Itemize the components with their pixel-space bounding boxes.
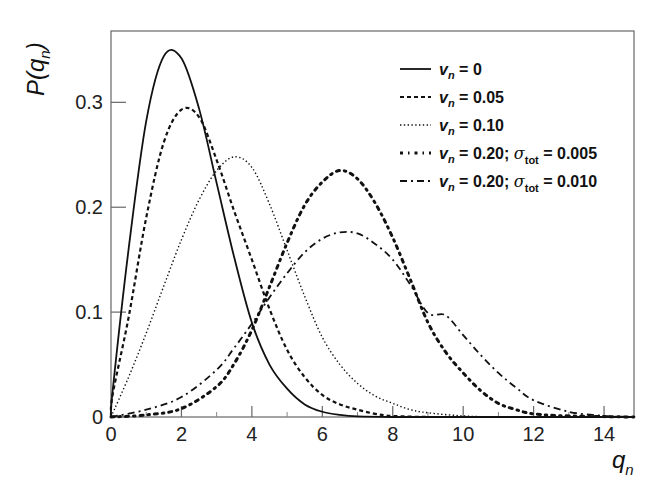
axis-ticks: 0246810121400.10.20.3 [75, 91, 615, 445]
chart: 0246810121400.10.20.3 vn = 0vn = 0.05vn … [0, 0, 658, 504]
x-axis-label-sub: n [625, 461, 633, 478]
curve-long-dash-dot [111, 232, 634, 417]
y-tick-label: 0.3 [75, 91, 103, 113]
x-tick-label: 2 [176, 423, 187, 445]
y-tick-label: 0.1 [75, 301, 103, 323]
plot-curves [111, 50, 634, 417]
legend-label: vn = 0 [439, 61, 482, 81]
y-axis-label: P(qn) [22, 42, 53, 96]
y-tick-label: 0 [92, 406, 103, 428]
curve-dotted [111, 157, 634, 417]
legend-label: vn = 0.20; σtot = 0.010 [439, 172, 597, 194]
legend-label: vn = 0.05 [439, 89, 504, 109]
x-axis-label: qn [612, 446, 634, 478]
x-tick-label: 0 [105, 423, 116, 445]
legend: vn = 0vn = 0.05vn = 0.10vn = 0.20; σtot … [400, 61, 597, 194]
curve-solid [111, 50, 634, 417]
plot-frame [111, 31, 634, 417]
y-axis-label-main: P(q [22, 58, 49, 96]
curve-dense-dash-dot [111, 170, 634, 417]
x-tick-label: 6 [317, 423, 328, 445]
legend-label: vn = 0.20; σtot = 0.005 [439, 144, 597, 166]
y-tick-label: 0.2 [75, 196, 103, 218]
x-tick-label: 14 [593, 423, 615, 445]
x-tick-label: 4 [246, 423, 257, 445]
x-tick-label: 10 [452, 423, 474, 445]
x-axis-label-main: q [612, 446, 626, 473]
x-tick-label: 8 [387, 423, 398, 445]
legend-label: vn = 0.10 [439, 117, 504, 137]
y-axis-label-sub: n [36, 50, 53, 58]
x-tick-label: 12 [523, 423, 545, 445]
